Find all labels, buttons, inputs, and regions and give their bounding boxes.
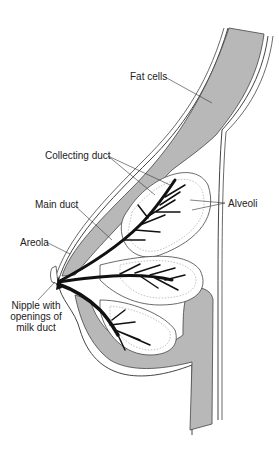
label-areola: Areola (20, 237, 49, 248)
label-main-duct: Main duct (35, 199, 78, 210)
label-collecting-duct: Collecting duct (45, 150, 111, 161)
label-alveoli: Alveoli (228, 198, 257, 209)
lobe-middle (100, 256, 203, 305)
breast-anatomy-diagram: Fat cells Collecting duct Alveoli Main d… (0, 0, 279, 450)
label-nipple-line1: Nipple with (10, 300, 62, 311)
areola (51, 266, 59, 284)
label-fat-cells: Fat cells (130, 71, 167, 82)
label-nipple-line2: openings of (10, 311, 62, 322)
label-nipple: Nipple with openings of milk duct (10, 300, 62, 333)
label-nipple-line3: milk duct (10, 322, 62, 333)
diagram-drawing (0, 0, 279, 450)
